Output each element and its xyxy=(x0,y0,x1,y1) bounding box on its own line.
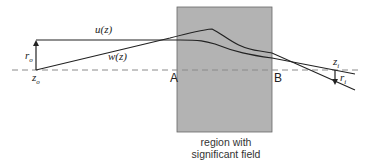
label-w: w(z) xyxy=(108,51,127,62)
caption-line-1: region with xyxy=(180,136,272,148)
label-B: B xyxy=(274,72,282,84)
region-caption: region with significant field xyxy=(180,136,272,160)
label-A: A xyxy=(170,72,178,84)
caption-line-2: significant field xyxy=(180,148,272,160)
arrow-up-icon xyxy=(33,40,39,46)
label-u: u(z) xyxy=(95,24,112,35)
label-z-o: zo xyxy=(32,72,40,86)
label-r-i: ri xyxy=(340,72,346,86)
label-r-o: ro xyxy=(25,50,33,64)
label-z-i: zi xyxy=(333,56,339,70)
